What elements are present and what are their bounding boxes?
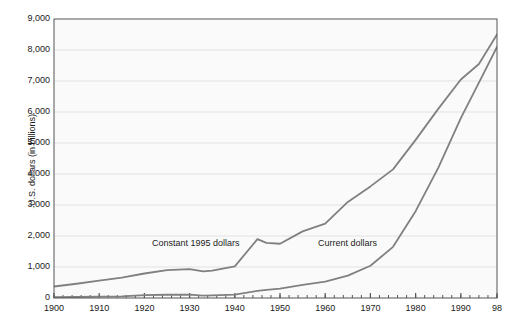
plot-area (0, 0, 514, 322)
x-axis-tick-label: 1910 (77, 303, 121, 313)
x-axis-tick-label: 98 (475, 303, 514, 313)
x-axis-tick-label: 1920 (122, 303, 166, 313)
x-axis-tick-label: 1960 (303, 303, 347, 313)
x-axis-tick-label: 1900 (32, 303, 76, 313)
series-label-current-dollars: Current dollars (318, 238, 377, 248)
series-label-constant-dollars: Constant 1995 dollars (152, 238, 240, 248)
x-axis-tick-label: 1940 (213, 303, 257, 313)
plot-background (54, 19, 497, 298)
x-axis-tick-labels: 1900191019201930194019501960197019801990… (0, 303, 514, 319)
x-axis-tick-label: 1930 (168, 303, 212, 313)
x-axis-tick-label: 1950 (258, 303, 302, 313)
x-axis-tick-label: 1970 (348, 303, 392, 313)
chart-figure: U.S. dollars (in billions) 01,0002,0003,… (0, 0, 514, 322)
x-axis-tick-label: 1980 (394, 303, 438, 313)
